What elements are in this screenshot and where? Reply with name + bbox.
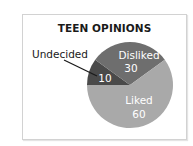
liked-label: Liked (125, 94, 153, 106)
disliked-label: Disliked (118, 49, 159, 61)
undecided-value: 10 (98, 72, 111, 84)
liked-value: 60 (132, 108, 145, 120)
undecided-label: Undecided (32, 48, 88, 60)
disliked-value: 30 (124, 62, 137, 74)
pie-chart: Undecided 10 Disliked 30 Liked 60 (0, 0, 193, 146)
